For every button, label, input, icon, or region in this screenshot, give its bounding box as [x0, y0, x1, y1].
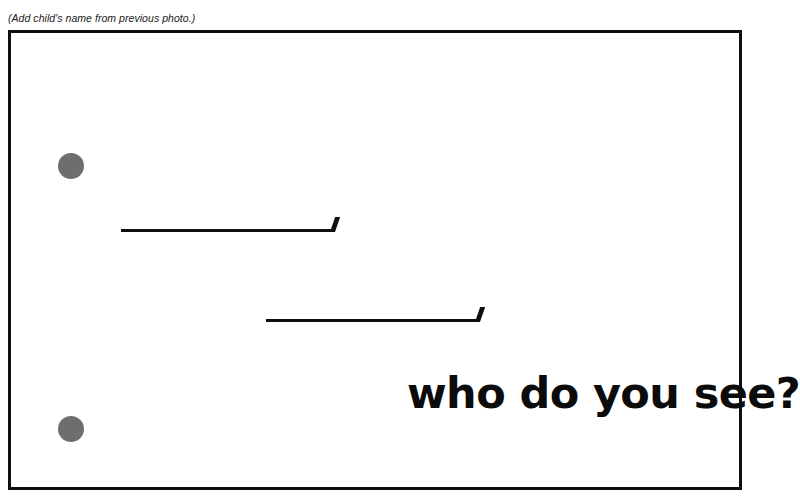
worksheet-card: who do you see? [8, 30, 742, 490]
circle-dot-bottom-icon [58, 416, 84, 442]
answer-line-1[interactable] [121, 216, 334, 232]
circle-dot-top-icon [58, 153, 84, 179]
answer-line-rule [121, 229, 334, 232]
answer-line-2[interactable] [266, 306, 479, 322]
prompt-text: who do you see? [407, 367, 800, 419]
answer-line-rule [266, 319, 479, 322]
answer-line-tick-icon [475, 307, 485, 322]
answer-line-tick-icon [330, 217, 340, 232]
instruction-note: (Add child's name from previous photo.) [8, 11, 195, 25]
